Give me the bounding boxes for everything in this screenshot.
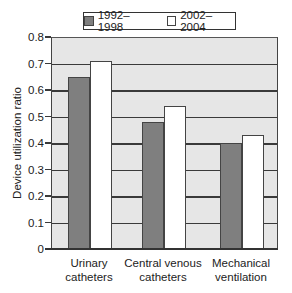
gridline xyxy=(52,64,277,65)
legend-label: 1992–1998 xyxy=(98,9,153,33)
legend-item-1992-1998: 1992–1998 xyxy=(84,9,153,33)
legend-item-2002-2004: 2002–2004 xyxy=(167,9,236,33)
x-label-line: Central venous xyxy=(118,256,208,270)
x-label-line: Mechanical xyxy=(196,256,286,270)
y-tick-label: 0.3 xyxy=(14,164,44,176)
y-tick-label: 0.6 xyxy=(14,84,44,96)
x-label-line: catheters xyxy=(118,270,208,284)
y-tick-label: 0 xyxy=(14,243,44,255)
y-tick-label: 0.4 xyxy=(14,137,44,149)
legend-swatch-white xyxy=(167,16,177,26)
legend-label: 2002–2004 xyxy=(180,9,235,33)
x-category-label: Central venous catheters xyxy=(118,256,208,284)
y-tick-label: 0.7 xyxy=(14,58,44,70)
x-label-line: ventilation xyxy=(196,270,286,284)
legend-swatch-gray xyxy=(84,16,94,26)
bar xyxy=(142,122,164,249)
bar xyxy=(90,61,112,249)
y-tick-label: 0.5 xyxy=(14,111,44,123)
y-tick-label: 0.2 xyxy=(14,190,44,202)
y-tick-label: 0.1 xyxy=(14,217,44,229)
bar xyxy=(164,106,186,249)
x-category-label: Mechanical ventilation xyxy=(196,256,286,284)
y-tick-label: 0.8 xyxy=(14,31,44,43)
bar xyxy=(220,143,242,249)
plot-area xyxy=(51,37,278,249)
bar xyxy=(68,77,90,249)
x-axis-line xyxy=(45,248,278,250)
bar xyxy=(242,135,264,249)
chart-legend: 1992–1998 2002–2004 xyxy=(83,12,236,30)
